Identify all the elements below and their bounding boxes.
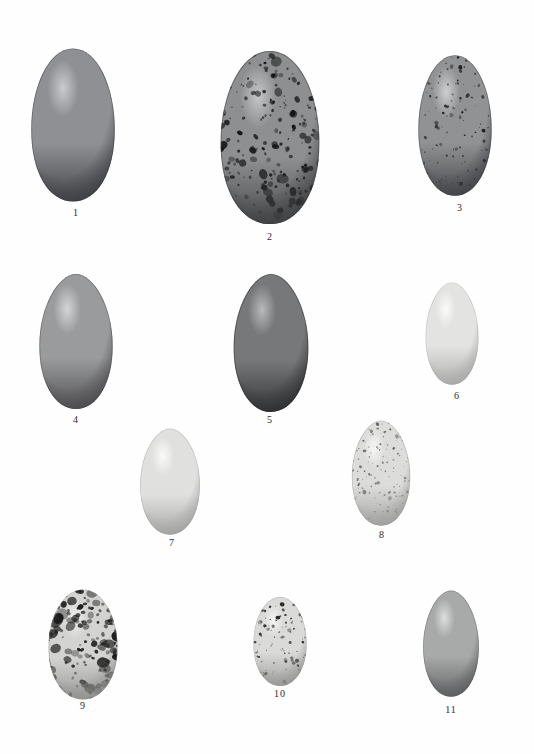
- egg-specimen-9: [35, 587, 131, 702]
- egg-label-1: 1: [56, 207, 96, 218]
- egg-shape-2: [205, 47, 335, 228]
- egg-label-4: 4: [56, 414, 96, 425]
- egg-specimen-4: [22, 272, 130, 412]
- egg-specimen-10: [243, 595, 317, 688]
- egg-label-3: 3: [440, 202, 480, 213]
- egg-shape-8: [338, 419, 424, 528]
- egg-label-10: 10: [260, 688, 300, 699]
- egg-specimen-2: [205, 47, 335, 228]
- egg-shape-7: [126, 427, 214, 537]
- egg-label-7: 7: [152, 537, 192, 548]
- egg-plate: 1234567891011: [0, 0, 534, 754]
- egg-shape-4: [22, 272, 130, 412]
- egg-specimen-6: [413, 281, 491, 387]
- egg-specimen-1: [18, 45, 128, 205]
- egg-specimen-3: [404, 52, 506, 199]
- egg-specimen-8: [338, 419, 424, 528]
- egg-shape-6: [413, 281, 491, 387]
- egg-shape-5: [216, 272, 326, 415]
- egg-label-6: 6: [437, 390, 477, 401]
- egg-shape-11: [410, 589, 492, 699]
- egg-shape-3: [404, 52, 506, 199]
- egg-specimen-11: [410, 589, 492, 699]
- egg-shape-1: [18, 45, 128, 205]
- egg-label-8: 8: [362, 529, 402, 540]
- egg-label-5: 5: [250, 414, 290, 425]
- egg-shape-9: [35, 587, 131, 702]
- egg-label-9: 9: [63, 700, 103, 711]
- egg-shape-10: [243, 595, 317, 688]
- egg-specimen-5: [216, 272, 326, 415]
- egg-label-2: 2: [250, 231, 290, 242]
- egg-label-11: 11: [431, 704, 471, 715]
- egg-specimen-7: [126, 427, 214, 537]
